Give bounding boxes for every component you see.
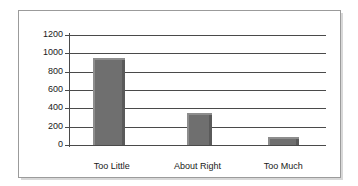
x-axis-category-label: About Right: [155, 161, 241, 171]
y-axis-tick-mark: [65, 108, 69, 109]
bar-chart: 020040060080010001200 Too LittleAbout Ri…: [18, 10, 341, 178]
bar-right-shadow: [122, 58, 125, 145]
y-axis-tick-mark: [65, 127, 69, 128]
gridline: [69, 53, 326, 54]
bar-top-highlight: [187, 113, 212, 115]
y-axis-tick-label: 400: [48, 103, 63, 112]
y-axis-tick-mark: [65, 35, 69, 36]
bar-right-shadow: [209, 113, 212, 145]
x-axis-category-label: Too Much: [240, 161, 326, 171]
bar[interactable]: [187, 113, 212, 145]
plot-area: [69, 35, 326, 145]
y-axis-tick-label: 600: [48, 85, 63, 94]
y-axis-tick-mark: [65, 72, 69, 73]
bar-left-highlight: [93, 58, 95, 145]
gridline: [69, 145, 326, 146]
bar[interactable]: [268, 137, 299, 145]
bar-left-highlight: [187, 113, 189, 145]
frame-drop-shadow-bottom: [21, 178, 342, 180]
y-axis-tick-label: 1200: [43, 30, 63, 39]
bar-top-highlight: [93, 58, 125, 60]
y-axis-tick-labels: 020040060080010001200: [19, 11, 63, 179]
y-axis-tick-label: 200: [48, 122, 63, 131]
y-axis-tick-mark: [65, 53, 69, 54]
bar[interactable]: [93, 58, 125, 145]
frame-drop-shadow-right: [341, 13, 343, 180]
y-axis-tick-label: 0: [58, 140, 63, 149]
x-axis-category-label: Too Little: [69, 161, 155, 171]
gridline: [69, 35, 326, 36]
y-axis-tick-mark: [65, 90, 69, 91]
y-axis-tick-label: 1000: [43, 48, 63, 57]
y-axis-tick-label: 800: [48, 67, 63, 76]
y-axis-tick-mark: [65, 145, 69, 146]
bar-top-highlight: [268, 137, 299, 139]
